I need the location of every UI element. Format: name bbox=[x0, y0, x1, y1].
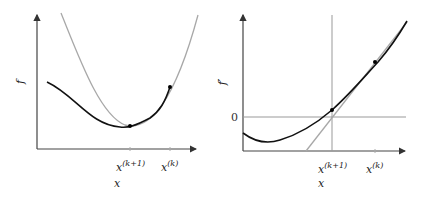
right-zero-label: 0 bbox=[231, 111, 238, 124]
right-point-xk1 bbox=[330, 108, 334, 112]
left-function-curve bbox=[47, 82, 170, 127]
right-derivative-curve bbox=[243, 21, 407, 142]
left-point-xk1 bbox=[128, 124, 132, 128]
right-xlabel: x bbox=[318, 177, 325, 190]
left-xlabel: x bbox=[114, 177, 121, 190]
right-plot: f′ 0 x(k+1) x(k) x bbox=[216, 15, 407, 190]
left-tick-label-xk: x(k) bbox=[161, 159, 178, 174]
left-ylabel: f bbox=[14, 78, 27, 85]
left-quadratic-model bbox=[61, 13, 198, 126]
right-tick-label-xk1: x(k+1) bbox=[318, 161, 347, 176]
left-tick-label-xk1: x(k+1) bbox=[116, 159, 145, 174]
right-tick-label-xk: x(k) bbox=[366, 161, 383, 176]
right-ylabel: f′ bbox=[216, 78, 229, 86]
right-point-xk bbox=[373, 60, 377, 64]
left-point-xk bbox=[168, 85, 172, 89]
left-plot: f x(k+1) x(k) x bbox=[14, 13, 198, 190]
